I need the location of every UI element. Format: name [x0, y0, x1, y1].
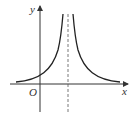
curve-right [73, 14, 120, 82]
y-axis-label: y [30, 4, 35, 15]
x-axis-label: x [122, 86, 127, 97]
origin-label: O [29, 87, 37, 98]
graph-canvas [0, 0, 134, 118]
function-graph: y x O [0, 0, 134, 118]
